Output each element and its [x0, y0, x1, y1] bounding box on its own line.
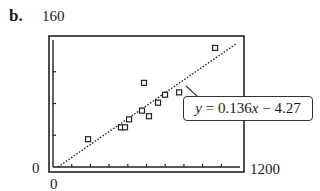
data-point: [163, 92, 168, 97]
equation-mid: = 0.136: [202, 100, 252, 116]
equation-suffix: − 4.27: [258, 100, 300, 116]
data-point: [127, 117, 132, 122]
regression-equation-callout: y = 0.136x − 4.27: [183, 96, 313, 121]
data-point: [86, 137, 91, 142]
data-point: [139, 108, 144, 113]
data-point: [156, 100, 161, 105]
data-point: [122, 125, 127, 130]
data-point: [146, 114, 151, 119]
data-point: [177, 90, 182, 95]
data-point: [213, 45, 218, 50]
data-point: [142, 80, 147, 85]
